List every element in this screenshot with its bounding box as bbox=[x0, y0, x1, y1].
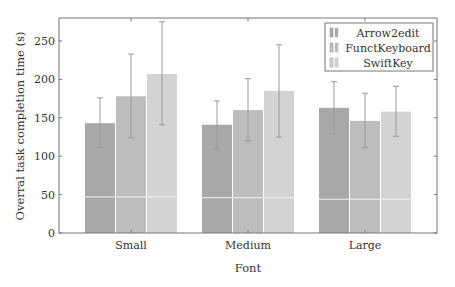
y-tick-label: 200 bbox=[34, 73, 55, 86]
legend-swatch-icon bbox=[330, 58, 333, 67]
y-tick-label: 0 bbox=[48, 227, 55, 240]
x-tick-label-small: Small bbox=[115, 239, 147, 252]
y-tick-label: 250 bbox=[34, 35, 55, 48]
x-tick-label-large: Large bbox=[349, 239, 382, 252]
legend: Arrow2editFunctKeyboardSwiftKey bbox=[325, 23, 433, 71]
x-axis-title: Font bbox=[235, 261, 262, 275]
legend-swatch-icon bbox=[335, 28, 338, 37]
y-axis-title: Overral task completion time (s) bbox=[13, 32, 27, 221]
x-tick-label-medium: Medium bbox=[225, 239, 271, 252]
legend-swatch-icon bbox=[330, 28, 333, 37]
y-tick-label: 150 bbox=[34, 112, 55, 125]
legend-label-swiftkey: SwiftKey bbox=[363, 57, 413, 70]
bar-chart: 050100150200250 SmallMediumLarge Font Ov… bbox=[0, 0, 455, 287]
legend-swatch-icon bbox=[335, 58, 338, 67]
y-tick-label: 100 bbox=[34, 150, 55, 163]
y-tick-label: 50 bbox=[41, 189, 55, 202]
legend-swatch-icon bbox=[330, 43, 333, 52]
legend-label-functkeyboard: FunctKeyboard bbox=[345, 42, 431, 55]
legend-label-arrow2edit: Arrow2edit bbox=[356, 27, 421, 40]
legend-swatch-icon bbox=[335, 43, 338, 52]
